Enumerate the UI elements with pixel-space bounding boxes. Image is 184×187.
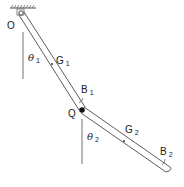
pivot-o-circle [19, 11, 23, 15]
joint-q-label: Q [68, 108, 76, 119]
g1-label: G1 [56, 55, 70, 67]
theta-1-label: θ1 [28, 52, 40, 64]
center-of-mass-g2-dot [123, 140, 125, 142]
b1-label: B1 [81, 84, 94, 96]
theta-2-label: θ2 [87, 131, 99, 143]
pivot-o-label: O [7, 20, 15, 31]
joint-q-dot [79, 107, 85, 113]
b2-label: B2 [160, 146, 173, 158]
center-of-mass-g1-dot [51, 63, 53, 65]
double-pendulum-diagram: O θ1 G1 B1 Q θ2 G2 B2 [0, 0, 184, 187]
g2-label: G2 [125, 124, 139, 136]
